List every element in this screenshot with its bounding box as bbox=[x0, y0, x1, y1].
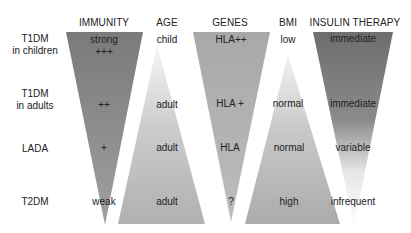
row-label-line2: in adults bbox=[16, 100, 53, 112]
cell-bmi: low bbox=[280, 35, 295, 45]
cell-age: adult bbox=[156, 100, 178, 110]
cell-insulin: variable bbox=[335, 143, 370, 153]
row-label-line1: T1DM bbox=[16, 88, 53, 100]
cell-immunity: weak bbox=[92, 197, 115, 207]
header-immunity: IMMUNITY bbox=[79, 18, 129, 28]
header-insulin-therapy: INSULIN THERAPY bbox=[310, 18, 401, 28]
cell-bmi: normal bbox=[274, 143, 305, 153]
cell-age: adult bbox=[156, 143, 178, 153]
cell-bmi: high bbox=[280, 197, 299, 207]
row-label-line2: in children bbox=[12, 45, 58, 57]
header-bmi: BMI bbox=[279, 18, 297, 28]
cell-immunity-level: +++ bbox=[95, 47, 113, 57]
cell-genes: HLA bbox=[220, 143, 239, 153]
cell-insulin: immediate bbox=[330, 99, 376, 109]
cell-bmi: normal bbox=[273, 99, 304, 109]
cell-immunity: + bbox=[101, 143, 107, 153]
row-label-lada: LADA bbox=[22, 143, 48, 155]
cell-immunity-strong: strong bbox=[90, 35, 118, 45]
diabetes-spectrum-diagram: IMMUNITY AGE GENES BMI INSULIN THERAPY T… bbox=[0, 0, 411, 233]
cell-immunity: ++ bbox=[98, 100, 110, 110]
cell-genes: HLA + bbox=[216, 99, 244, 109]
row-label-t2dm: T2DM bbox=[21, 196, 48, 208]
cell-insulin: infrequent bbox=[331, 197, 375, 207]
cell-genes: HLA++ bbox=[215, 35, 246, 45]
row-label-t1dm-children: T1DM in children bbox=[12, 33, 58, 57]
cell-age: adult bbox=[156, 197, 178, 207]
row-label-line1: T1DM bbox=[12, 33, 58, 45]
header-genes: GENES bbox=[212, 18, 248, 28]
cell-age: child bbox=[157, 35, 178, 45]
cell-insulin: immediate bbox=[330, 34, 376, 44]
row-label-t1dm-adults: T1DM in adults bbox=[16, 88, 53, 112]
header-age: AGE bbox=[156, 18, 177, 28]
cell-genes: ? bbox=[228, 197, 234, 207]
